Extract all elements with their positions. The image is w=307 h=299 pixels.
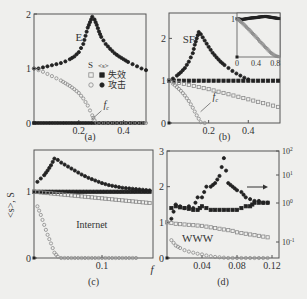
svg-text:0: 0 bbox=[235, 59, 239, 68]
data-point bbox=[97, 180, 100, 183]
y-tick-label: 1 bbox=[161, 75, 166, 86]
data-point bbox=[100, 83, 104, 87]
data-point bbox=[104, 183, 107, 186]
data-point bbox=[187, 205, 190, 208]
data-point bbox=[192, 224, 195, 227]
data-point bbox=[170, 221, 173, 224]
data-point bbox=[84, 34, 87, 37]
data-point bbox=[217, 79, 220, 82]
y-tick-label: 0 bbox=[159, 253, 164, 264]
panel-caption: (d) bbox=[217, 276, 229, 288]
data-point bbox=[41, 122, 44, 125]
data-point bbox=[140, 67, 143, 70]
data-point bbox=[197, 79, 200, 82]
data-point bbox=[66, 122, 69, 125]
data-point bbox=[85, 30, 88, 33]
data-point bbox=[237, 79, 240, 82]
data-point bbox=[148, 189, 151, 192]
data-point bbox=[222, 79, 225, 82]
data-point bbox=[227, 93, 230, 96]
data-point bbox=[257, 199, 260, 202]
data-point bbox=[196, 196, 199, 199]
data-point bbox=[209, 208, 212, 211]
data-point bbox=[222, 157, 225, 160]
data-point bbox=[267, 79, 270, 82]
data-point bbox=[83, 190, 86, 193]
x-tick-label: 0.08 bbox=[228, 260, 246, 271]
data-point bbox=[195, 37, 198, 40]
data-point bbox=[100, 35, 103, 38]
data-point bbox=[124, 199, 127, 202]
data-point bbox=[266, 236, 269, 239]
data-point bbox=[199, 33, 202, 36]
fc-annotation: fc bbox=[213, 91, 219, 103]
data-point bbox=[207, 88, 210, 91]
data-point bbox=[183, 206, 186, 209]
data-point bbox=[218, 174, 221, 177]
data-point bbox=[47, 122, 50, 125]
data-point bbox=[95, 23, 98, 26]
x-tick-label: 0.4 bbox=[117, 125, 130, 136]
data-point bbox=[64, 60, 67, 63]
data-point bbox=[244, 196, 247, 199]
panel-d: 01230.040.080.12WWW(d)10-1100101102 bbox=[159, 146, 295, 289]
data-point bbox=[171, 77, 174, 80]
data-point bbox=[114, 198, 117, 201]
data-point bbox=[117, 190, 120, 193]
data-point bbox=[249, 233, 252, 236]
data-point bbox=[128, 199, 131, 202]
data-point bbox=[240, 206, 243, 209]
data-point bbox=[70, 167, 73, 170]
data-point bbox=[83, 122, 86, 125]
x-tick-label: 0.2 bbox=[73, 125, 86, 136]
series-s-failure bbox=[165, 221, 269, 239]
data-point bbox=[102, 39, 105, 42]
panel-caption: (c) bbox=[88, 276, 99, 288]
data-point bbox=[145, 201, 148, 204]
data-point bbox=[97, 196, 100, 199]
data-point bbox=[128, 187, 131, 190]
data-point bbox=[205, 254, 208, 257]
data-point bbox=[144, 69, 147, 72]
y-tick-label: 0 bbox=[26, 253, 31, 264]
data-point bbox=[262, 79, 265, 82]
data-point bbox=[187, 79, 190, 82]
data-point bbox=[117, 186, 120, 189]
data-point bbox=[94, 190, 97, 193]
data-point bbox=[203, 39, 206, 42]
series--s-failure bbox=[167, 79, 279, 82]
data-point bbox=[51, 246, 54, 249]
data-point bbox=[107, 184, 110, 187]
data-point bbox=[124, 190, 127, 193]
data-point bbox=[96, 27, 99, 30]
svg-text:100: 100 bbox=[282, 198, 293, 208]
data-point bbox=[235, 231, 238, 234]
data-point bbox=[257, 100, 260, 103]
data-point bbox=[41, 66, 44, 69]
y-tick-label: 2 bbox=[161, 33, 166, 44]
data-point bbox=[183, 249, 186, 252]
annotation-internet: Internet bbox=[76, 219, 107, 230]
data-point bbox=[126, 60, 129, 63]
data-point bbox=[111, 190, 114, 193]
data-point bbox=[80, 173, 83, 176]
data-point bbox=[205, 206, 208, 209]
data-point bbox=[192, 79, 195, 82]
data-point bbox=[46, 233, 49, 236]
data-point bbox=[100, 73, 104, 77]
data-point bbox=[231, 208, 234, 211]
panel-b: 0120.20.4SFfc(b)100.40.8 bbox=[161, 13, 280, 143]
data-point bbox=[202, 79, 205, 82]
data-point bbox=[182, 82, 185, 85]
data-point bbox=[200, 224, 203, 227]
data-point bbox=[266, 201, 269, 204]
x-tick-label: 0.1 bbox=[96, 260, 109, 271]
data-point bbox=[207, 45, 210, 48]
data-point bbox=[131, 63, 134, 66]
y-tick-label: 0 bbox=[26, 118, 31, 129]
data-point bbox=[55, 63, 58, 66]
data-point bbox=[218, 208, 221, 211]
y-tick-label: 2 bbox=[159, 181, 164, 192]
y-axis-label: <s>, S bbox=[5, 192, 16, 218]
legend-header-S: S bbox=[88, 60, 93, 70]
